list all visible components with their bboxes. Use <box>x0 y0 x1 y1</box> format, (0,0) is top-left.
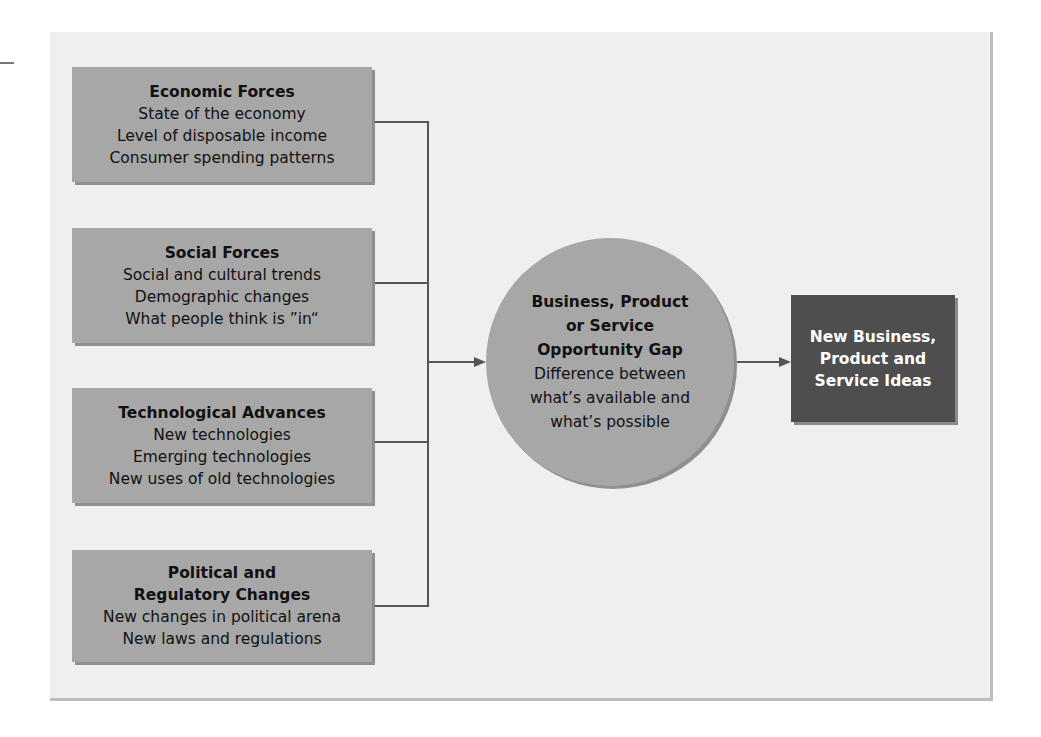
box-line: New laws and regulations <box>72 628 372 650</box>
gap-line: what’s available and <box>530 386 690 410</box>
new-ideas-box: New Business, Product and Service Ideas <box>791 295 955 422</box>
connector-economic <box>375 121 429 123</box>
box-line: New uses of old technologies <box>72 468 372 490</box>
gap-line: Difference between <box>534 362 686 386</box>
margin-tick <box>0 62 14 64</box>
economic-forces-box: Economic Forces State of the economy Lev… <box>72 67 372 182</box>
technological-advances-box: Technological Advances New technologies … <box>72 388 372 503</box>
box-title: Political and <box>72 562 372 584</box>
box-line: Consumer spending patterns <box>72 147 372 169</box>
connector-vertical <box>427 121 429 607</box>
box-title: Social Forces <box>72 242 372 264</box>
box-title: Economic Forces <box>72 81 372 103</box>
arrowhead-icon <box>779 357 791 367</box>
gap-line: what’s possible <box>550 410 669 434</box>
box-line: Emerging technologies <box>72 446 372 468</box>
connector-social <box>375 282 429 284</box>
opportunity-gap-circle: Business, Product or Service Opportunity… <box>486 238 734 486</box>
box-title: Regulatory Changes <box>72 584 372 606</box>
gap-title: or Service <box>566 314 654 338</box>
outcome-line: New Business, <box>810 326 936 348</box>
box-line: New technologies <box>72 424 372 446</box>
box-line: Social and cultural trends <box>72 264 372 286</box>
box-line: Level of disposable income <box>72 125 372 147</box>
box-title: Technological Advances <box>72 402 372 424</box>
box-line: New changes in political arena <box>72 606 372 628</box>
outcome-line: Service Ideas <box>810 370 936 392</box>
box-line: What people think is ”in“ <box>72 308 372 330</box>
connector-technological <box>375 441 429 443</box>
social-forces-box: Social Forces Social and cultural trends… <box>72 228 372 343</box>
box-line: Demographic changes <box>72 286 372 308</box>
outcome-line: Product and <box>810 348 936 370</box>
gap-title: Opportunity Gap <box>537 338 683 362</box>
box-line: State of the economy <box>72 103 372 125</box>
arrow-to-gap <box>429 361 476 363</box>
arrow-to-outcome <box>737 361 779 363</box>
arrowhead-icon <box>474 357 486 367</box>
political-regulatory-box: Political and Regulatory Changes New cha… <box>72 550 372 662</box>
gap-title: Business, Product <box>531 290 688 314</box>
connector-political <box>375 605 429 607</box>
